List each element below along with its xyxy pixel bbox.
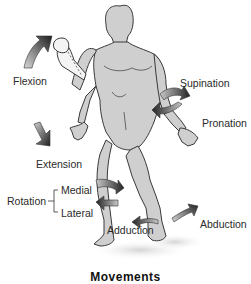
torso <box>94 42 164 150</box>
label-medial: Medial <box>61 184 92 196</box>
abduction-arrow-icon <box>172 204 198 222</box>
label-extension: Extension <box>36 158 82 170</box>
extension-arrow-icon <box>34 122 50 146</box>
label-lateral: Lateral <box>61 207 93 219</box>
left-arm-hanging <box>78 86 96 124</box>
flexion-arrow-icon <box>24 36 52 68</box>
label-pronation: Pronation <box>202 117 247 129</box>
label-supination: Supination <box>180 77 230 89</box>
rotation-bracket <box>48 190 58 212</box>
right-hand <box>178 128 198 146</box>
left-fist <box>53 38 68 53</box>
head <box>106 5 134 44</box>
label-adduction: Adduction <box>107 224 154 236</box>
label-abduction: Abduction <box>200 218 247 230</box>
left-hand <box>70 122 88 140</box>
label-flexion: Flexion <box>13 75 47 87</box>
label-rotation: Rotation <box>7 195 46 207</box>
diagram-caption: Movements <box>0 270 251 284</box>
